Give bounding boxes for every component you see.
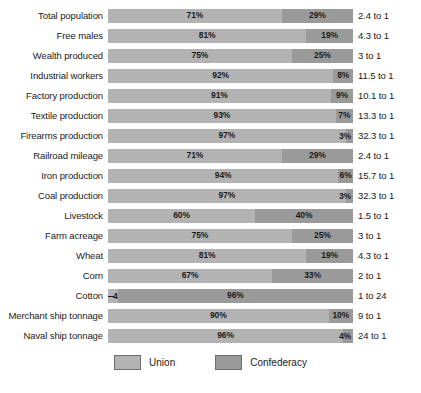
category-label: Naval ship tonnage	[0, 328, 108, 343]
bar-segment-confederacy: 25%	[292, 229, 353, 243]
ratio-label: 3 to 1	[353, 48, 421, 63]
stacked-bar: 94%6%	[108, 169, 353, 183]
union-value-label: 91%	[108, 91, 331, 100]
category-label: Wealth produced	[0, 48, 108, 63]
bar-segment-union: 60%	[108, 209, 255, 223]
stacked-bar: 71%29%	[108, 149, 353, 163]
chart-row: Total population71%29%2.4 to 1	[0, 8, 421, 23]
category-label: Farm acreage	[0, 228, 108, 243]
stacked-bar: 93%7%	[108, 109, 353, 123]
chart-row: Livestock60%40%1.5 to 1	[0, 208, 421, 223]
bar-segment-confederacy: 25%	[292, 49, 353, 63]
stacked-bar: 91%9%	[108, 89, 353, 103]
bar-segment-confederacy: 29%	[282, 149, 353, 163]
stacked-bar: 81%19%	[108, 29, 353, 43]
bar-segment-confederacy: 29%	[282, 9, 353, 23]
stacked-bar: 60%40%	[108, 209, 353, 223]
bar-segment-union: 81%	[108, 29, 306, 43]
category-label: Textile production	[0, 108, 108, 123]
bar-segment-confederacy: 6%	[338, 169, 353, 183]
confederacy-value-label: 7%	[336, 111, 353, 120]
ratio-label: 11.5 to 1	[353, 68, 421, 83]
confederacy-value-label: 40%	[255, 211, 353, 220]
legend-item-confederacy: Confederacy	[215, 355, 307, 370]
union-value-label: 94%	[108, 171, 338, 180]
confederacy-value-label: 29%	[282, 151, 353, 160]
chart-row: Naval ship tonnage96%4%—24 to 1	[0, 328, 421, 343]
stacked-bar: 71%29%	[108, 9, 353, 23]
ratio-label: 10.1 to 1	[353, 88, 421, 103]
ratio-label: 2.4 to 1	[353, 148, 421, 163]
ratio-label: 4.3 to 1	[353, 248, 421, 263]
chart-row: Railroad mileage71%29%2.4 to 1	[0, 148, 421, 163]
union-value-label: 75%	[108, 231, 292, 240]
legend-item-union: Union	[114, 355, 175, 370]
union-value-label: 81%	[108, 31, 306, 40]
ratio-label: 3 to 1	[353, 228, 421, 243]
bar-segment-union: 93%	[108, 109, 336, 123]
chart-row: Industrial workers92%8%11.5 to 1	[0, 68, 421, 83]
category-label: Total population	[0, 8, 108, 23]
bar-segment-confederacy: 10%	[329, 309, 354, 323]
category-label: Wheat	[0, 248, 108, 263]
confederacy-value-label: 3%	[339, 191, 351, 200]
ratio-label: 9 to 1	[353, 308, 421, 323]
ratio-label: 2.4 to 1	[353, 8, 421, 23]
ratio-label: 1.5 to 1	[353, 208, 421, 223]
category-label: Free males	[0, 28, 108, 43]
bar-segment-confederacy: 9%	[331, 89, 353, 103]
confederacy-value-label: 25%	[292, 231, 353, 240]
legend-swatch-union	[114, 355, 141, 370]
chart-legend: Union Confederacy	[0, 355, 421, 370]
confederacy-value-label: 4%	[339, 331, 351, 340]
stacked-bar: 75%25%	[108, 49, 353, 63]
bar-segment-confederacy: 3%—	[346, 189, 353, 203]
chart-row: Iron production94%6%15.7 to 1	[0, 168, 421, 183]
bar-segment-union: 75%	[108, 229, 292, 243]
confederacy-value-label: 8%	[333, 71, 353, 80]
bar-segment-confederacy: 4%—	[343, 329, 353, 343]
chart-row: Farm acreage75%25%3 to 1	[0, 228, 421, 243]
confederacy-value-label: 19%	[306, 31, 353, 40]
union-value-label: 97%	[108, 191, 346, 200]
union-value-label: 96%	[108, 331, 343, 340]
chart-row: Firearms production97%3%—32.3 to 1	[0, 128, 421, 143]
confederacy-value-label: 33%	[272, 271, 353, 280]
ratio-label: 32.3 to 1	[353, 188, 421, 203]
ratio-label: 13.3 to 1	[353, 108, 421, 123]
bar-segment-confederacy: 8%	[333, 69, 353, 83]
confederacy-value-label: 9%	[331, 91, 353, 100]
legend-label-confederacy: Confederacy	[250, 357, 307, 368]
union-value-label: 75%	[108, 51, 292, 60]
category-label: Cotton	[0, 288, 108, 303]
confederacy-value-label: 25%	[292, 51, 353, 60]
bar-segment-confederacy: 7%	[336, 109, 353, 123]
chart-row: Free males81%19%4.3 to 1	[0, 28, 421, 43]
union-value-label: 81%	[108, 251, 306, 260]
resource-comparison-chart: Total population71%29%2.4 to 1Free males…	[0, 0, 421, 393]
union-value-label: 71%	[108, 151, 282, 160]
bar-segment-confederacy: 19%	[306, 29, 353, 43]
confederacy-value-label: 19%	[306, 251, 353, 260]
bar-segment-confederacy: 96%	[118, 289, 353, 303]
category-label: Factory production	[0, 88, 108, 103]
ratio-label: 4.3 to 1	[353, 28, 421, 43]
stacked-bar: 97%3%—	[108, 189, 353, 203]
chart-row: Coal production97%3%—32.3 to 1	[0, 188, 421, 203]
bar-segment-confederacy: 3%—	[346, 129, 353, 143]
stacked-bar: 75%25%	[108, 229, 353, 243]
ratio-label: 2 to 1	[353, 268, 421, 283]
chart-row: Corn67%33%2 to 1	[0, 268, 421, 283]
category-label: Livestock	[0, 208, 108, 223]
confederacy-value-label: 3%	[339, 131, 351, 140]
category-label: Iron production	[0, 168, 108, 183]
bar-segment-union: 90%	[108, 309, 329, 323]
legend-label-union: Union	[149, 357, 175, 368]
union-value-label: 90%	[108, 311, 329, 320]
legend-swatch-confederacy	[215, 355, 242, 370]
bar-segment-union: 91%	[108, 89, 331, 103]
confederacy-value-label: 29%	[282, 11, 353, 20]
bar-segment-confederacy: 33%	[272, 269, 353, 283]
chart-row: Wealth produced75%25%3 to 1	[0, 48, 421, 63]
stacked-bar: 97%3%—	[108, 129, 353, 143]
